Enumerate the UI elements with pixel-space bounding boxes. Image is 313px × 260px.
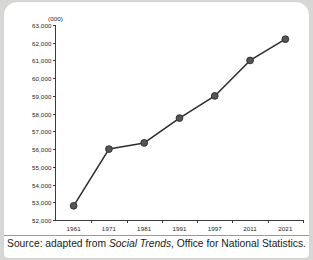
data-point-marker — [70, 202, 77, 209]
data-point-marker — [282, 36, 289, 43]
data-point-marker — [247, 57, 254, 64]
x-axis-tick-mark — [232, 220, 233, 223]
x-axis-tick-mark — [162, 220, 163, 223]
x-axis-tick-mark — [91, 220, 92, 223]
series-polyline — [74, 39, 286, 206]
x-axis-tick-mark — [268, 220, 269, 223]
x-axis-tick-label: 1991 — [172, 225, 186, 232]
caption-prefix: Source: adapted from — [7, 238, 109, 249]
caption-suffix: , Office for National Statistics. — [171, 238, 306, 249]
source-caption: Source: adapted from Social Trends, Offi… — [4, 238, 309, 249]
figure-card: (000) 52,00053,00054,00055,00056,00057,0… — [4, 2, 309, 258]
x-axis-tick-mark — [197, 220, 198, 223]
line-chart: (000) 52,00053,00054,00055,00056,00057,0… — [4, 2, 309, 234]
data-point-marker — [211, 93, 218, 100]
x-axis-tick-label: 1981 — [137, 225, 151, 232]
plot-area: 52,00053,00054,00055,00056,00057,00058,0… — [55, 25, 303, 221]
data-point-marker — [106, 146, 113, 153]
x-axis-tick-label: 1971 — [102, 225, 116, 232]
x-axis-tick-label: 2011 — [243, 225, 257, 232]
x-axis-tick-label: 1961 — [67, 225, 81, 232]
y-axis-tick-mark — [53, 220, 56, 221]
data-point-marker — [176, 115, 183, 122]
data-series-line — [56, 25, 303, 220]
caption-publication-title: Social Trends — [109, 238, 171, 249]
x-axis-tick-label: 2021 — [278, 225, 292, 232]
caption-divider — [4, 235, 309, 236]
x-axis-tick-mark — [303, 220, 304, 223]
data-point-marker — [141, 139, 148, 146]
x-axis-tick-mark — [127, 220, 128, 223]
x-axis-tick-label: 1997 — [208, 225, 222, 232]
